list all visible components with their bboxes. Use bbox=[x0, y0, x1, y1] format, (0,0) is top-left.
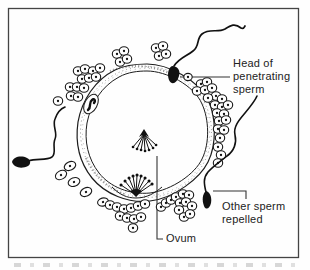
follicle-cell bbox=[67, 176, 81, 188]
follicle-cell bbox=[219, 126, 228, 134]
follicle-cell bbox=[128, 224, 137, 232]
diagram-canvas bbox=[0, 0, 310, 270]
follicle-cell bbox=[223, 101, 232, 109]
fertilization-diagram: Head of penetrating sperm Other sperm re… bbox=[0, 0, 310, 270]
follicle-cell bbox=[185, 210, 194, 218]
follicle-cell bbox=[136, 213, 145, 221]
follicle-cell bbox=[95, 64, 104, 72]
left-sperm-head-icon bbox=[12, 157, 30, 168]
central-spindle-aster bbox=[133, 129, 156, 151]
repelled-sperm bbox=[203, 96, 257, 209]
label-other-sperm: Other sperm repelled bbox=[222, 200, 292, 226]
follicle-cell bbox=[203, 94, 212, 102]
follicle-cell bbox=[187, 202, 196, 210]
leader-other-sperm bbox=[213, 191, 246, 199]
cropped-caption-remnant bbox=[14, 263, 296, 267]
follicle-cell bbox=[122, 55, 131, 63]
follicle-cell bbox=[213, 143, 222, 151]
follicle-cell bbox=[73, 93, 82, 101]
follicle-cell bbox=[161, 50, 170, 58]
label-penetrating-sperm: Head of penetrating sperm bbox=[233, 57, 299, 96]
follicle-cell bbox=[207, 84, 216, 92]
follicle-cell bbox=[140, 200, 149, 208]
follicle-cell bbox=[119, 47, 128, 55]
repelled-sperm-head-icon bbox=[203, 191, 212, 209]
follicle-cell bbox=[184, 73, 192, 80]
follicle-cell bbox=[215, 134, 224, 142]
follicle-cell bbox=[91, 73, 100, 81]
follicle-cell bbox=[53, 97, 62, 105]
left-sperm bbox=[12, 107, 65, 168]
leader-ovum bbox=[157, 156, 163, 239]
left-sperm-tail bbox=[28, 107, 65, 161]
follicle-cell bbox=[221, 116, 230, 124]
follicle-cell bbox=[79, 84, 88, 92]
follicle-cell bbox=[158, 42, 167, 50]
label-ovum: Ovum bbox=[166, 232, 216, 245]
penetrating-sperm-head-icon bbox=[168, 66, 180, 83]
follicle-cell bbox=[79, 186, 93, 199]
